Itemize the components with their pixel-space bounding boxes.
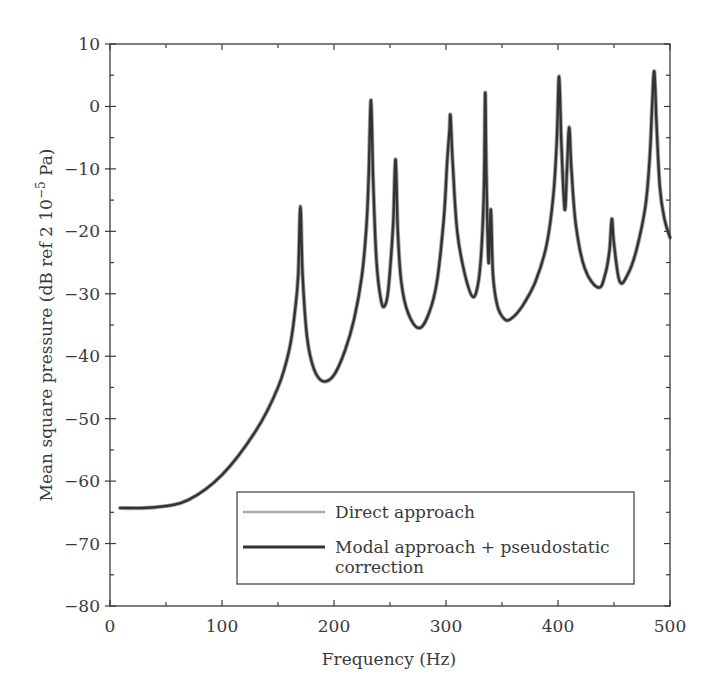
- x-tick-label: 0: [105, 616, 116, 636]
- y-tick-label: −10: [64, 159, 100, 179]
- y-tick-label: −60: [64, 471, 100, 491]
- y-tick-label: 0: [89, 96, 100, 116]
- y-axis-title-main: Mean square pressure (dB ref 2 10: [36, 199, 56, 501]
- x-axis-title: Frequency (Hz): [322, 649, 456, 669]
- y-tick-label: −70: [64, 534, 100, 554]
- x-tick-label: 300: [430, 616, 462, 636]
- y-tick-label: 10: [78, 34, 100, 54]
- y-tick-label: −30: [64, 284, 100, 304]
- x-tick-label: 500: [654, 616, 686, 636]
- y-axis-title: Mean square pressure (dB ref 2 10−5 Pa): [34, 148, 56, 501]
- y-axis-title-superscript: −5: [34, 181, 48, 199]
- legend-label-modal-line2: correction: [335, 557, 424, 577]
- data-curves: [120, 71, 670, 508]
- y-tick-label: −50: [64, 409, 100, 429]
- y-tick-label: −80: [64, 596, 100, 616]
- frequency-response-chart: 0100200300400500100−10−20−30−40−50−60−70…: [0, 0, 719, 698]
- x-tick-label: 400: [542, 616, 574, 636]
- y-axis-title-tail: Pa): [36, 148, 56, 181]
- x-tick-label: 200: [318, 616, 350, 636]
- y-tick-label: −40: [64, 346, 100, 366]
- legend-label-direct: Direct approach: [335, 502, 475, 522]
- series-modal-approach: [120, 71, 670, 508]
- y-tick-label: −20: [64, 221, 100, 241]
- x-tick-label: 100: [206, 616, 238, 636]
- legend-label-modal-line1: Modal approach + pseudostatic: [335, 537, 610, 557]
- series-direct-approach: [120, 71, 670, 508]
- legend: Direct approach Modal approach + pseudos…: [237, 492, 634, 584]
